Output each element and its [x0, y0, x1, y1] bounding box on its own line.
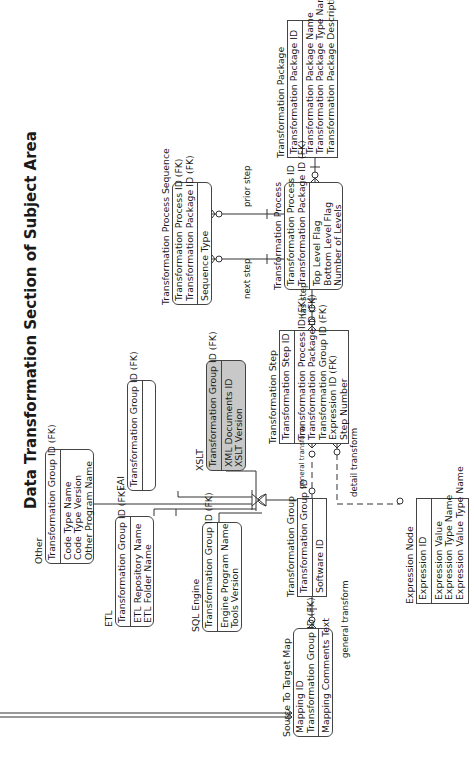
attr: ETL Folder Name	[143, 520, 154, 623]
attr: Transformation Process ID (FK)	[174, 186, 185, 301]
attr: Step Number	[339, 334, 350, 440]
rel-detail-transform	[337, 444, 400, 504]
rel-label-next-step: next step	[242, 259, 252, 299]
rel-label-has-step: has step	[298, 282, 308, 319]
attr: Transformation Package ID (FK)	[185, 186, 196, 301]
attr: Transformation Package ID (FK)	[297, 186, 308, 286]
entity-name-transformation-package: Transformation Package	[275, 47, 286, 158]
entity-name-transformation-step: Transformation Step	[267, 350, 278, 444]
rel-label-general-transform-step: general transform	[298, 426, 306, 489]
entity-eai[interactable]: Transformation Group ID (FK)	[127, 380, 156, 491]
attr: Mapping Comments Text	[321, 632, 332, 733]
attr: Transformation Group ID (FK)	[204, 526, 215, 628]
entity-name-xslt: XSLT	[194, 449, 205, 471]
attr: Mapping ID	[295, 632, 306, 733]
entity-name-etl: ETL	[103, 610, 114, 627]
attr: Transformation Group ID (FK)	[306, 632, 317, 733]
attr: Software ID	[315, 502, 326, 593]
entity-name-transformation-process: Transformation Process	[272, 182, 283, 290]
entity-transformation-package[interactable]: Transformation Package ID Transformation…	[287, 20, 338, 158]
subtype-xslt	[226, 471, 256, 489]
attr: Transformation Process ID	[286, 186, 297, 286]
entity-transformation-step[interactable]: Transformation Step ID Transformation Pr…	[279, 330, 349, 444]
attr: Transformation Package Description	[326, 24, 337, 154]
attr: Sequence Type	[200, 186, 211, 301]
rel-label-prior-step: prior step	[242, 166, 252, 208]
entity-name-expression-node: Expression Node	[404, 526, 415, 604]
entity-expression-node[interactable]: Expression ID Expression Value Expressio…	[416, 498, 469, 604]
subtype-symbol	[252, 489, 266, 511]
attr: Transformation Package ID	[289, 24, 300, 154]
entity-other[interactable]: Transformation Group ID (FK) Code Type N…	[45, 449, 94, 564]
rel-label-detail-transform: detail transform	[349, 428, 359, 497]
diagram-title: Data Transformation Section of Subject A…	[22, 131, 40, 509]
entity-name-sql-engine: SQL Engine	[190, 579, 201, 632]
attr: Number of Levels	[333, 186, 344, 286]
subtype-sql	[219, 513, 262, 522]
entity-source-to-target-map[interactable]: Mapping ID Transformation Group ID (FK) …	[293, 628, 333, 737]
entity-transformation-process-sequence[interactable]: Transformation Process ID (FK) Transform…	[172, 182, 212, 305]
entity-transformation-process[interactable]: Transformation Process ID Transformation…	[284, 182, 343, 290]
entity-name-source-to-target-map: Source To Target Map	[281, 638, 292, 737]
attr: Transformation Group ID (FK)	[117, 520, 128, 623]
attr: Transformation Group ID (FK)	[129, 384, 140, 487]
attr: Transformation Step ID	[281, 334, 292, 440]
entity-name-other: Other	[33, 538, 44, 564]
attr: Transformation Group ID	[299, 502, 310, 593]
entity-sql-engine[interactable]: Transformation Group ID (FK) Engine Prog…	[202, 522, 242, 632]
attr: Other Program Name	[84, 453, 95, 560]
attr: Transformation Group ID (FK)	[208, 364, 219, 467]
attr: XSLT Version	[234, 364, 245, 467]
entity-transformation-group[interactable]: Transformation Group ID Software ID	[297, 498, 327, 597]
rel-label-general-transform-map: general transform	[340, 580, 350, 658]
entity-name-transformation-group: Transformation Group	[285, 496, 296, 597]
subtype-eai	[178, 491, 252, 497]
attr: Expression ID	[418, 502, 429, 600]
entity-xslt[interactable]: Transformation Group ID (FK) XML Documen…	[206, 360, 246, 471]
attr: Transformation Group ID (FK)	[47, 453, 58, 560]
attr: Tools Version	[230, 526, 241, 628]
entity-etl[interactable]: Transformation Group ID (FK) ETL Reposit…	[115, 516, 154, 627]
attr: Expression Value Type Name	[455, 502, 466, 600]
diagram-canvas: Data Transformation Section of Subject A…	[0, 0, 474, 759]
entity-name-transformation-process-sequence: Transformation Process Sequence	[160, 148, 171, 305]
rel-package-process-circle	[312, 172, 318, 178]
